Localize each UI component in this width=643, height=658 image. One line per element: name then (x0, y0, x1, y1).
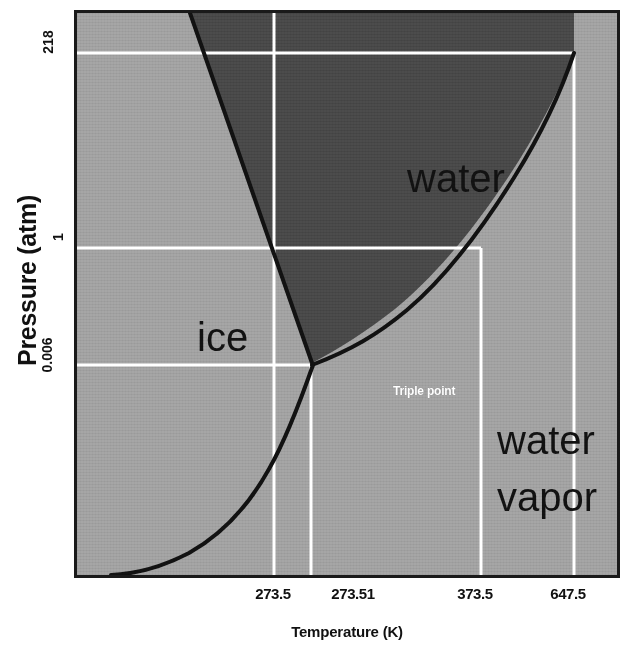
phase-diagram-svg (77, 13, 617, 575)
y-tick-label-1: 1 (50, 217, 66, 257)
x-axis-title: Temperature (K) (74, 623, 620, 640)
plot-area: ice water water vapor Triple point Criti… (74, 10, 620, 578)
x-tick-label-27351: 273.51 (305, 585, 401, 602)
x-tick-label-2735: 273.5 (230, 585, 316, 602)
y-tick-label-218: 218 (40, 22, 56, 62)
y-axis-title: Pressure (atm) (13, 141, 42, 421)
y-tick-label-0006: 0.006 (39, 331, 55, 379)
phase-diagram-figure: ice water water vapor Triple point Criti… (0, 0, 643, 658)
x-tick-label-6475: 647.5 (525, 585, 611, 602)
x-tick-label-3735: 373.5 (432, 585, 518, 602)
